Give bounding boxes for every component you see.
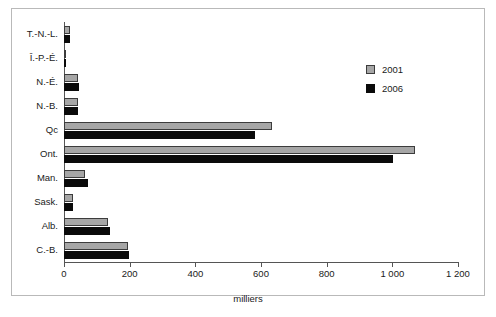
bar-2001-Alb. xyxy=(64,218,108,226)
x-axis-title: milliers xyxy=(0,293,496,304)
chart-category-row: C.-B. xyxy=(64,238,458,262)
chart-category-row: Ont. xyxy=(64,142,458,166)
chart-figure: 02004006008001 0001 200 T.-N.-L.Î.-P.-É.… xyxy=(0,0,496,317)
x-axis-tick-label: 600 xyxy=(253,268,269,279)
x-axis-tick-label: 1 200 xyxy=(446,268,470,279)
bar-2006-C.-B. xyxy=(64,251,129,259)
chart-category-row: Qc xyxy=(64,118,458,142)
x-axis-tick xyxy=(392,262,393,267)
legend-swatch-2001-icon xyxy=(366,65,375,74)
bar-2001-N.-B. xyxy=(64,98,78,106)
chart-legend: 2001 2006 xyxy=(366,62,403,100)
chart-category-row: T.-N.-L. xyxy=(64,22,458,46)
bar-2006-N.-É. xyxy=(64,83,79,91)
legend-item-2001: 2001 xyxy=(366,62,403,77)
y-axis-category-label: Î.-P.-É. xyxy=(30,52,58,63)
bar-2006-Alb. xyxy=(64,227,110,235)
bar-2001-C.-B. xyxy=(64,242,128,250)
y-axis-category-label: Sask. xyxy=(34,196,58,207)
x-axis-tick xyxy=(130,262,131,267)
x-axis-tick xyxy=(327,262,328,267)
x-axis-tick-label: 200 xyxy=(122,268,138,279)
bar-2001-N.-É. xyxy=(64,74,78,82)
bar-2001-Sask. xyxy=(64,194,73,202)
y-axis-category-label: N.-B. xyxy=(36,100,58,111)
y-axis-category-label: Ont. xyxy=(40,148,58,159)
bar-2006-Ont. xyxy=(64,155,393,163)
bar-2001-Qc xyxy=(64,122,272,130)
y-axis-category-label: C.-B. xyxy=(36,244,58,255)
y-axis-category-label: N.-É. xyxy=(36,76,58,87)
bar-2006-Î.-P.-É. xyxy=(64,59,66,67)
chart-category-row: Sask. xyxy=(64,190,458,214)
x-axis-tick xyxy=(195,262,196,267)
bar-2001-Ont. xyxy=(64,146,415,154)
bar-2006-N.-B. xyxy=(64,107,78,115)
x-axis-tick-label: 400 xyxy=(187,268,203,279)
bar-2001-Î.-P.-É. xyxy=(64,50,66,58)
x-axis-tick xyxy=(261,262,262,267)
bar-2006-Qc xyxy=(64,131,255,139)
y-axis-category-label: Alb. xyxy=(42,220,58,231)
x-axis-tick-label: 1 000 xyxy=(380,268,404,279)
x-axis-tick-label: 0 xyxy=(61,268,66,279)
plot-area: T.-N.-L.Î.-P.-É.N.-É.N.-B.QcOnt.Man.Sask… xyxy=(64,22,458,262)
x-axis-tick xyxy=(458,262,459,267)
y-axis-category-label: T.-N.-L. xyxy=(27,28,58,39)
chart-category-row: Man. xyxy=(64,166,458,190)
bar-2006-Man. xyxy=(64,179,88,187)
legend-label-2001: 2001 xyxy=(382,64,403,75)
chart-category-row: Alb. xyxy=(64,214,458,238)
y-axis-category-label: Man. xyxy=(37,172,58,183)
legend-label-2006: 2006 xyxy=(382,83,403,94)
bar-2001-Man. xyxy=(64,170,85,178)
x-axis-tick xyxy=(64,262,65,267)
bar-2006-T.-N.-L. xyxy=(64,35,70,43)
x-axis-tick-label: 800 xyxy=(319,268,335,279)
bar-2006-Sask. xyxy=(64,203,73,211)
legend-swatch-2006-icon xyxy=(366,84,375,93)
legend-item-2006: 2006 xyxy=(366,81,403,96)
y-axis-category-label: Qc xyxy=(46,124,58,135)
bar-2001-T.-N.-L. xyxy=(64,26,70,34)
